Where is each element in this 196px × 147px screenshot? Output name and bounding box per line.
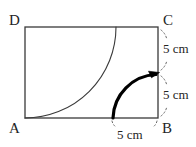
dimension-label-right-upper: 5 cm xyxy=(163,42,189,55)
tick-right-lower-top-icon xyxy=(161,76,167,84)
tick-bottom-left-icon xyxy=(112,121,116,127)
tick-right-upper-bottom-icon xyxy=(161,62,167,70)
tick-bottom-right-icon xyxy=(153,121,157,127)
geometry-figure: D C A B 5 cm 5 cm 5 cm xyxy=(0,0,196,147)
tick-right-upper-top-icon xyxy=(161,30,167,38)
vertex-label-d: D xyxy=(9,13,20,28)
dimension-label-right-lower: 5 cm xyxy=(163,88,189,101)
bold-arc-from-b-icon xyxy=(113,75,156,119)
dimension-label-bottom: 5 cm xyxy=(117,128,143,141)
vertex-label-b: B xyxy=(162,121,172,136)
vertex-label-c: C xyxy=(163,13,173,28)
tick-right-lower-bottom-icon xyxy=(161,108,167,116)
thin-arc-from-d-icon xyxy=(25,27,116,118)
vertex-label-a: A xyxy=(9,121,20,136)
rectangle-abcd xyxy=(25,27,158,118)
